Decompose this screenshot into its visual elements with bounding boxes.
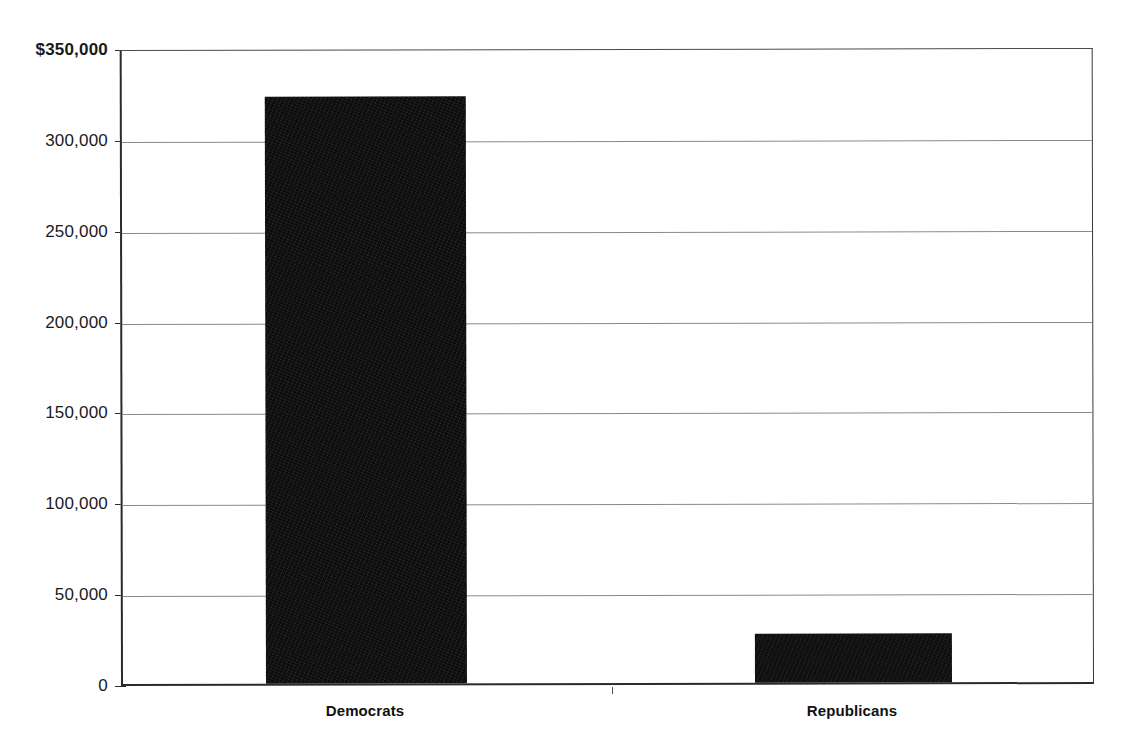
- y-axis-tick-label: 150,000: [45, 403, 108, 423]
- bar-democrats: [265, 96, 467, 683]
- y-axis-tick-label: 0: [98, 676, 108, 696]
- x-axis-label-democrats: Democrats: [326, 702, 404, 719]
- gridlines: [122, 49, 1092, 51]
- y-axis-tick-label: 50,000: [55, 585, 108, 605]
- bar-chart: $350,000300,000250,000200,000150,000100,…: [0, 0, 1125, 738]
- y-axis-tick-label: 300,000: [45, 131, 108, 151]
- y-axis-tick-label: 250,000: [45, 222, 108, 242]
- x-axis-label-republicans: Republicans: [807, 702, 897, 719]
- y-axis-tick-label: $350,000: [35, 40, 108, 60]
- x-axis-tick-mark: [612, 687, 613, 694]
- y-axis-tick-label: 200,000: [45, 313, 108, 333]
- bar-series: [122, 49, 1092, 51]
- plot-area: [120, 48, 1094, 686]
- y-axis-tick-label: 100,000: [45, 494, 108, 514]
- y-axis-tick-mark: [115, 686, 126, 687]
- bar-republicans: [755, 633, 952, 682]
